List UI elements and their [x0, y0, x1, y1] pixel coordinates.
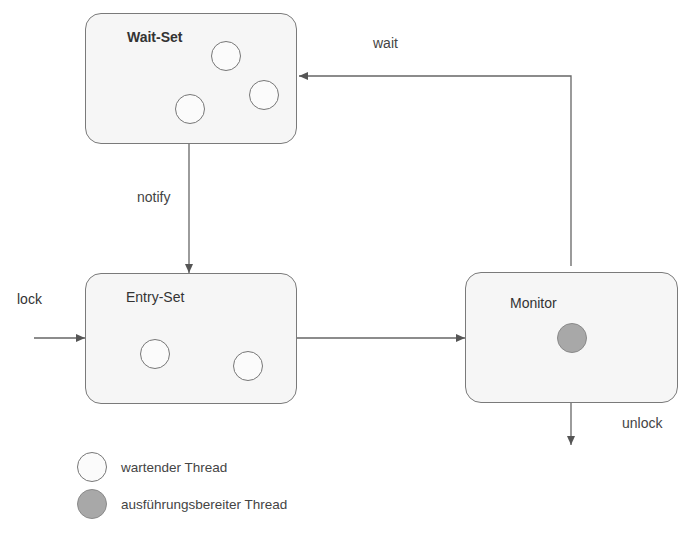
unlock-label: unlock: [622, 415, 662, 431]
waiting-thread-icon: [211, 41, 241, 71]
waiting-thread-icon: [77, 452, 107, 482]
waiting-thread-icon: [140, 339, 170, 369]
wait-set-box: Wait-Set: [85, 13, 297, 144]
notify-label: notify: [137, 189, 170, 205]
wait-arrow: [299, 76, 571, 266]
legend-item-running: ausführungsbereiter Thread: [77, 489, 287, 519]
legend-label: wartender Thread: [121, 460, 227, 475]
lock-label: lock: [17, 291, 42, 307]
waiting-thread-icon: [249, 80, 279, 110]
running-thread-icon: [77, 489, 107, 519]
waiting-thread-icon: [233, 351, 263, 381]
entry-set-title: Entry-Set: [126, 289, 184, 305]
wait-label: wait: [373, 35, 398, 51]
legend-label: ausführungsbereiter Thread: [121, 497, 287, 512]
monitor-title: Monitor: [510, 295, 557, 311]
running-thread-icon: [557, 323, 587, 353]
legend-item-waiting: wartender Thread: [77, 452, 227, 482]
entry-set-box: Entry-Set: [85, 273, 297, 404]
monitor-box: Monitor: [465, 272, 678, 403]
waiting-thread-icon: [175, 94, 205, 124]
wait-set-title: Wait-Set: [127, 29, 182, 45]
